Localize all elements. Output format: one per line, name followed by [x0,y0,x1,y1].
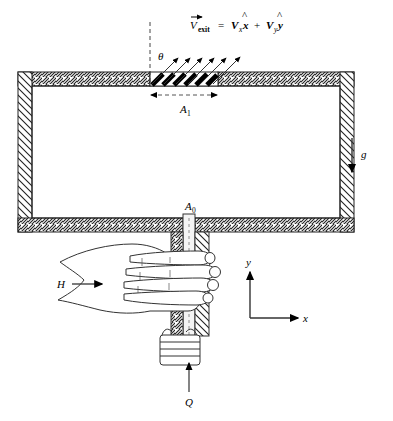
figure-canvas: θ V exit = V x x ^ + V y y ^ A 1 g A 0 [0,0,393,421]
eq-lhs-V: V [190,19,198,31]
tank-wall-bottom-left [18,218,183,232]
dimension-A1: A 1 [151,95,217,118]
angle-label: θ [158,50,164,62]
tank-wall-top-right [218,72,354,86]
gravity-label: g [361,148,367,160]
tank-wall-top-left [18,72,150,86]
heat-label: Q [185,396,193,408]
eq-lhs-subscript: exit [198,25,210,34]
exit-velocity-equation: V exit = V x x ^ + V y y ^ [190,9,283,34]
hand-fingertip-2 [210,267,221,278]
inlet-area-label: A [184,200,192,212]
eq-plus: + [254,19,260,31]
eq-equals: = [218,19,224,31]
exit-area-subscript: 1 [187,109,191,118]
hand-fingertip-4 [203,293,213,303]
exit-slot [150,72,218,86]
hand-fingertip-1 [205,253,215,264]
exit-area-label: A [179,103,187,115]
hand-illustration [58,244,221,313]
hand-fingertip-3 [208,280,219,291]
hat-icon-x: ^ [242,9,248,21]
x-axis-label: x [302,312,308,324]
tank-wall-left [18,72,32,232]
heating-coil [160,329,200,365]
heat-input-indicator: Q [185,363,193,408]
inlet-area-annotation: A 0 [184,200,196,215]
hat-icon-y: ^ [277,9,283,21]
enthalpy-label: H [56,278,66,290]
hand-finger-2 [126,265,216,279]
coordinate-axes: y x [245,256,308,324]
tank-wall-bottom-right [195,218,354,232]
coil-body [160,335,200,365]
diagram-svg: θ V exit = V x x ^ + V y y ^ A 1 g A 0 [0,0,393,421]
y-axis-label: y [245,256,251,268]
